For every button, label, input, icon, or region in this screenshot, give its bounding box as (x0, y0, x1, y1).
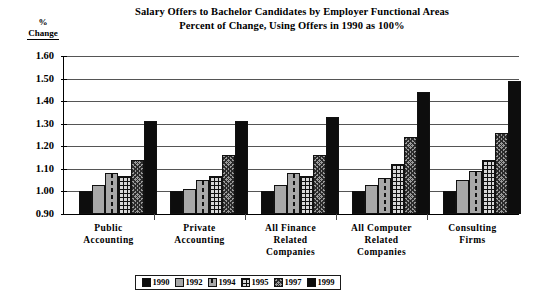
y-tick-label: 1.60 (6, 51, 54, 62)
legend-label-1999: 1999 (318, 278, 335, 287)
bar-1997-4 (404, 137, 417, 214)
bar-1994-3 (287, 173, 300, 214)
bar-1995-1 (118, 176, 131, 214)
bar-1997-2 (222, 155, 235, 214)
legend-label-1992: 1992 (186, 278, 203, 287)
legend-swatch-1999 (307, 278, 316, 287)
x-axis-label-line: Related (336, 234, 427, 246)
y-tick-label: 0.90 (6, 209, 54, 220)
y-axis-label-line1: % (17, 17, 69, 28)
chart-title-line1: Salary Offers to Bachelor Candidates by … (62, 5, 522, 19)
legend-swatch-1990 (142, 278, 151, 287)
y-axis-label-line2: Change (27, 28, 59, 40)
bar-1992-2 (183, 189, 196, 214)
bar-group (246, 56, 337, 214)
category-separator (336, 214, 337, 220)
bar-1994-1 (105, 173, 118, 214)
chart-subtitle: Percent of Change, Using Offers in 1990 … (62, 19, 522, 33)
bar-group (155, 56, 246, 214)
bar-1995-2 (209, 176, 222, 214)
legend-item-1997[interactable]: 1997 (274, 278, 302, 287)
legend-label-1995: 1995 (252, 278, 269, 287)
bar-1992-1 (92, 185, 105, 214)
bar-1995-3 (300, 176, 313, 214)
y-tick-mark (61, 214, 67, 215)
legend-swatch-1994 (208, 278, 217, 287)
legend-label-1994: 1994 (219, 278, 236, 287)
legend-label-1990: 1990 (153, 278, 170, 287)
bar-group (337, 56, 428, 214)
bar-1997-1 (131, 160, 144, 214)
y-tick-label: 1.40 (6, 96, 54, 107)
gridline (64, 214, 519, 215)
bar-1992-5 (456, 180, 469, 214)
x-axis-label-line: All Finance (245, 222, 336, 234)
legend-item-1999[interactable]: 1999 (307, 278, 335, 287)
legend-swatch-1995 (241, 278, 250, 287)
bar-1990-1 (79, 191, 92, 214)
y-tick-label: 1.20 (6, 141, 54, 152)
bar-1992-4 (365, 185, 378, 214)
x-axis-label-5: ConsultingFirms (427, 222, 518, 246)
legend-item-1994[interactable]: 1994 (208, 278, 236, 287)
category-separator (427, 214, 428, 220)
legend-item-1995[interactable]: 1995 (241, 278, 269, 287)
y-tick-label: 1.10 (6, 164, 54, 175)
bar-group (428, 56, 519, 214)
bar-1992-3 (274, 185, 287, 214)
x-axis-label-line: Related (245, 234, 336, 246)
chart-container: Salary Offers to Bachelor Candidates by … (0, 0, 533, 299)
bar-1990-2 (170, 191, 183, 214)
y-tick-label: 1.00 (6, 186, 54, 197)
x-axis-label-line: Private (154, 222, 245, 234)
x-axis-label-3: All FinanceRelatedCompanies (245, 222, 336, 258)
chart-title: Salary Offers to Bachelor Candidates by … (62, 5, 522, 33)
bar-1994-2 (196, 180, 209, 214)
x-axis-label-line: Firms (427, 234, 518, 246)
legend-item-1992[interactable]: 1992 (175, 278, 203, 287)
bar-1997-5 (495, 133, 508, 214)
bar-1997-3 (313, 155, 326, 214)
bar-group (64, 56, 155, 214)
bar-1990-3 (261, 191, 274, 214)
x-axis-label-line: Companies (336, 246, 427, 258)
x-axis-label-1: PublicAccounting (63, 222, 154, 246)
plot-area: 1.601.501.401.301.201.101.000.90 (63, 56, 518, 214)
x-axis-label-line: All Computer (336, 222, 427, 234)
bar-1990-4 (352, 191, 365, 214)
y-tick-label: 1.50 (6, 74, 54, 85)
category-separator (154, 214, 155, 220)
bar-1994-4 (378, 178, 391, 214)
legend-item-1990[interactable]: 1990 (142, 278, 170, 287)
x-axis-label-line: Companies (245, 246, 336, 258)
bar-1999-5 (508, 81, 521, 214)
chart-legend: 199019921994199519971999 (135, 275, 341, 290)
x-axis-label-line: Accounting (154, 234, 245, 246)
x-axis-label-line: Public (63, 222, 154, 234)
x-axis-label-line: Accounting (63, 234, 154, 246)
x-axis-label-line: Consulting (427, 222, 518, 234)
legend-swatch-1997 (274, 278, 283, 287)
bar-1995-5 (482, 160, 495, 214)
legend-swatch-1992 (175, 278, 184, 287)
bar-1990-5 (443, 191, 456, 214)
bar-1995-4 (391, 164, 404, 214)
y-axis-label: % Change (17, 17, 69, 40)
x-axis-label-2: PrivateAccounting (154, 222, 245, 246)
category-separator (245, 214, 246, 220)
x-axis-label-4: All ComputerRelatedCompanies (336, 222, 427, 258)
bar-1994-5 (469, 171, 482, 214)
y-tick-label: 1.30 (6, 119, 54, 130)
legend-label-1997: 1997 (285, 278, 302, 287)
